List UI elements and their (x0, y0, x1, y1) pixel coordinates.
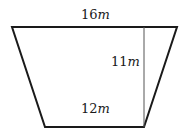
height-label: 11m (111, 55, 140, 68)
bottom-base-value: 12 (81, 101, 98, 116)
top-base-unit: m (98, 7, 110, 22)
height-unit: m (128, 54, 140, 69)
bottom-base-unit: m (98, 101, 110, 116)
bottom-base-label: 12m (81, 102, 110, 115)
top-base-label: 16m (81, 8, 110, 21)
top-base-value: 16 (81, 7, 98, 22)
height-value: 11 (111, 54, 128, 69)
